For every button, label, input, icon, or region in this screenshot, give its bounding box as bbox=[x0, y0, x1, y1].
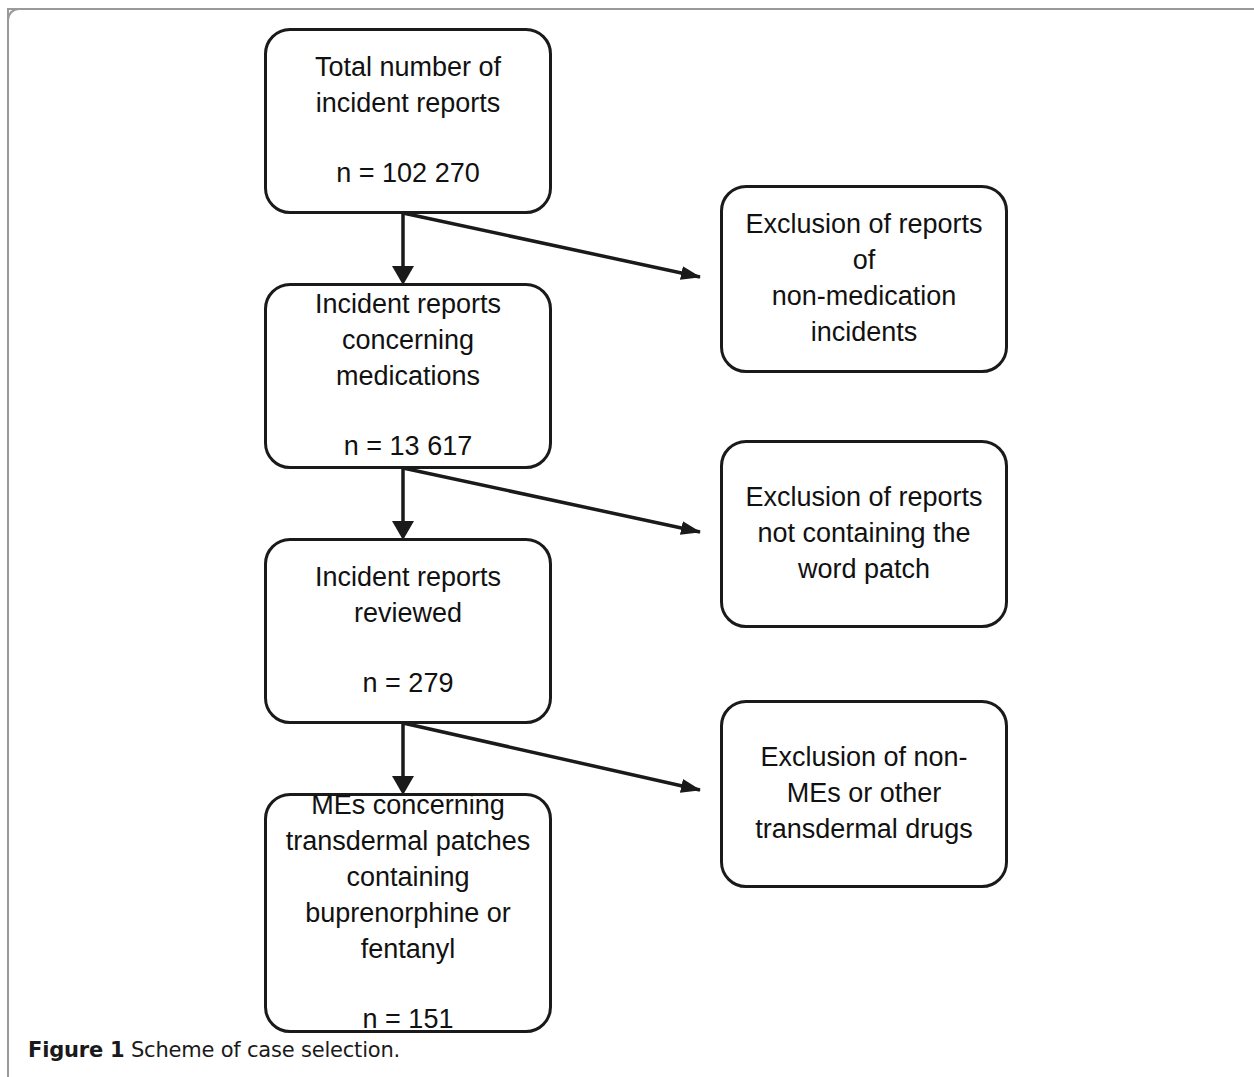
exclusion-node-not-containing-word-patch: Exclusion of reports not containing the … bbox=[720, 440, 1008, 628]
flow-node-mes-transdermal-patches: MEs concerning transdermal patches conta… bbox=[264, 793, 552, 1033]
flow-node-label: MEs concerning transdermal patches conta… bbox=[274, 788, 543, 968]
flow-node-label: Total number of incident reports bbox=[303, 50, 513, 122]
flow-node-incident-reports-medications: Incident reports concerning medications … bbox=[264, 283, 552, 469]
edge-node1-to-node2 bbox=[392, 213, 414, 285]
flowchart-connectors bbox=[0, 0, 1254, 1077]
exclusion-node-label: Exclusion of reports of non-medication i… bbox=[723, 207, 1005, 351]
edge-node2-to-node3 bbox=[392, 468, 414, 540]
figure-page: Total number of incident reports n = 102… bbox=[0, 0, 1254, 1077]
flow-node-count: n = 279 bbox=[363, 666, 454, 702]
flow-node-count: n = 151 bbox=[363, 1002, 454, 1038]
exclusion-node-label: Exclusion of non- MEs or other transderm… bbox=[743, 740, 985, 848]
flow-node-label: Incident reports reviewed bbox=[303, 560, 513, 632]
flow-node-count: n = 102 270 bbox=[336, 156, 479, 192]
edge-node3-to-node4 bbox=[392, 723, 414, 795]
flow-node-label: Incident reports concerning medications bbox=[303, 287, 513, 395]
exclusion-node-non-mes-other-transdermal: Exclusion of non- MEs or other transderm… bbox=[720, 700, 1008, 888]
exclusion-node-non-medication-incidents: Exclusion of reports of non-medication i… bbox=[720, 185, 1008, 373]
flow-node-incident-reports-reviewed: Incident reports reviewed n = 279 bbox=[264, 538, 552, 724]
edge-node2-to-exclusion2 bbox=[403, 468, 700, 532]
flow-node-count: n = 13 617 bbox=[344, 429, 472, 465]
flow-node-total-incident-reports: Total number of incident reports n = 102… bbox=[264, 28, 552, 214]
exclusion-node-label: Exclusion of reports not containing the … bbox=[733, 480, 994, 588]
edge-node3-to-exclusion3 bbox=[403, 723, 700, 790]
edge-node1-to-exclusion1 bbox=[403, 213, 700, 277]
